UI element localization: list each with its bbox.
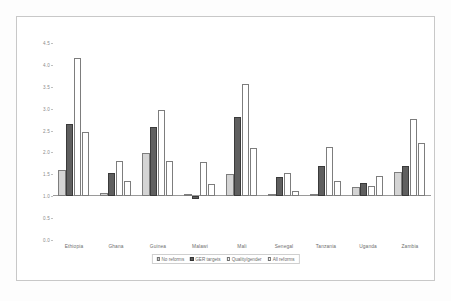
bar	[208, 184, 215, 196]
bar	[116, 161, 123, 196]
bar-group: Tanzania	[310, 43, 341, 240]
bar	[326, 147, 333, 196]
bar	[352, 187, 359, 196]
bar-group-bars	[226, 43, 257, 240]
y-axis-tick-label: 1.5	[43, 172, 50, 177]
bar-group: Guinea	[142, 43, 173, 240]
bar-group: Ghana	[100, 43, 131, 240]
bar-group: Mali	[226, 43, 257, 240]
bar	[242, 84, 249, 197]
y-axis-tick-mark	[51, 218, 54, 219]
x-axis-tick-label: Uganda	[359, 244, 377, 249]
bar	[418, 143, 425, 196]
bar	[226, 174, 233, 196]
bar	[310, 194, 317, 196]
bar-group-bars	[310, 43, 341, 240]
y-axis-tick-label: 0.5	[43, 216, 50, 221]
x-axis-tick-label: Tanzania	[316, 244, 336, 249]
bar	[334, 181, 341, 196]
bar-group: Uganda	[352, 43, 383, 240]
legend-item: All reforms	[268, 257, 295, 262]
bar	[200, 162, 207, 196]
y-axis-tick-mark	[51, 152, 54, 153]
y-axis-tick-label: 3.0	[43, 106, 50, 111]
chart-frame: 4.54.03.53.02.52.01.51.00.50.0 EthiopiaG…	[16, 16, 435, 281]
y-axis-tick-mark	[51, 87, 54, 88]
bar-group-bars	[394, 43, 425, 240]
legend-item-label: GER targets	[195, 257, 220, 262]
plot-area: 4.54.03.53.02.52.01.51.00.50.0 EthiopiaG…	[53, 43, 431, 240]
legend-swatch-icon	[268, 257, 272, 261]
bar	[360, 183, 367, 197]
y-axis-tick-mark	[51, 196, 54, 197]
bar	[142, 153, 149, 196]
bar	[184, 194, 191, 196]
bar	[58, 170, 65, 197]
bar-group-bars	[100, 43, 131, 240]
bar	[250, 148, 257, 196]
y-axis-tick-label: 3.5	[43, 84, 50, 89]
bar-group: Senegal	[268, 43, 299, 240]
bar-group: Ethiopia	[58, 43, 89, 240]
y-axis-tick-label: 2.0	[43, 150, 50, 155]
bar	[82, 132, 89, 196]
x-axis-tick-label: Ethiopia	[65, 244, 84, 249]
y-axis-tick-label: 0.0	[43, 238, 50, 243]
bar	[124, 181, 131, 196]
legend-item-label: All reforms	[273, 257, 295, 262]
bar	[192, 196, 199, 199]
bar	[234, 117, 241, 196]
bar	[66, 124, 73, 197]
bar	[394, 172, 401, 197]
y-axis-tick-mark	[51, 174, 54, 175]
y-axis-tick-mark	[51, 109, 54, 110]
x-axis-tick-label: Senegal	[275, 244, 294, 249]
x-axis-tick-label: Zambia	[402, 244, 419, 249]
bar-group-bars	[142, 43, 173, 240]
legend-item: Quality/gender	[227, 257, 262, 262]
chart-canvas: 4.54.03.53.02.52.01.51.00.50.0 EthiopiaG…	[0, 0, 451, 301]
legend-item-label: No reforms	[161, 257, 184, 262]
legend-item: No reforms	[156, 257, 184, 262]
bar	[74, 58, 81, 196]
x-axis-tick-label: Mali	[237, 244, 246, 249]
y-axis-tick-label: 4.5	[43, 41, 50, 46]
bar	[368, 186, 375, 197]
y-axis-tick-label: 4.0	[43, 62, 50, 67]
legend-swatch-icon	[190, 257, 194, 261]
y-axis-tick-label: 1.0	[43, 194, 50, 199]
y-axis-tick-mark	[51, 240, 54, 241]
bar	[100, 193, 107, 197]
bar	[318, 166, 325, 196]
y-axis-tick-label: 2.5	[43, 128, 50, 133]
bar	[166, 161, 173, 196]
bar-group-bars	[268, 43, 299, 240]
legend-swatch-icon	[227, 257, 231, 261]
x-axis-tick-label: Ghana	[108, 244, 123, 249]
legend-item-label: Quality/gender	[232, 257, 262, 262]
bar	[158, 110, 165, 196]
bar-group-bars	[184, 43, 215, 240]
bar	[402, 166, 409, 196]
bar	[150, 127, 157, 196]
bar	[276, 177, 283, 196]
bar	[108, 173, 115, 197]
legend-swatch-icon	[156, 257, 160, 261]
bar-group: Zambia	[394, 43, 425, 240]
y-axis-tick-mark	[51, 131, 54, 132]
x-axis-tick-label: Guinea	[150, 244, 166, 249]
bar	[284, 173, 291, 196]
y-axis-tick-mark	[51, 43, 54, 44]
legend-item: GER targets	[190, 257, 220, 262]
chart-legend: No reformsGER targetsQuality/genderAll r…	[151, 254, 299, 264]
bar	[268, 194, 275, 196]
x-axis-tick-label: Malawi	[192, 244, 208, 249]
bar	[376, 176, 383, 196]
bar	[410, 119, 417, 196]
bar-group-bars	[58, 43, 89, 240]
bar-group: Malawi	[184, 43, 215, 240]
bar	[292, 191, 299, 197]
bar-group-bars	[352, 43, 383, 240]
y-axis-tick-mark	[51, 65, 54, 66]
